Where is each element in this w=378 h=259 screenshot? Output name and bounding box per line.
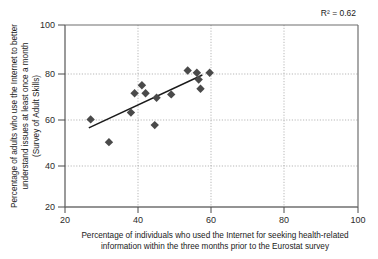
y-tick-label: 40	[45, 161, 55, 171]
x-tick-label: 40	[133, 215, 143, 225]
y-tick-label: 100	[40, 20, 55, 30]
y-axis-title: Percentage of adults who use the Interne…	[10, 24, 41, 208]
chart-figure: 100 80 60 40 20 20 40 60 80 100 R² = 0.6…	[0, 0, 378, 259]
x-axis-tick-labels: 20 40 60 80 100	[60, 215, 366, 225]
x-tick-label: 20	[60, 215, 70, 225]
y-axis-title-line1: Percentage of adults who use the Interne…	[10, 24, 19, 208]
scatter-chart: 100 80 60 40 20 20 40 60 80 100 R² = 0.6…	[0, 0, 378, 259]
y-tick-label: 80	[45, 69, 55, 79]
x-tick-label: 80	[279, 215, 289, 225]
x-axis-title-line1: Percentage of individuals who used the I…	[81, 231, 349, 240]
x-axis-title: Percentage of individuals who used the I…	[81, 231, 349, 251]
r-squared-annotation: R² = 0.62	[321, 8, 356, 18]
y-axis-title-line3: (Survey of Adult Skills)	[32, 75, 41, 157]
y-tick-label: 20	[45, 202, 55, 212]
x-tick-label: 100	[350, 215, 365, 225]
y-tick-label: 60	[45, 115, 55, 125]
plot-area-background	[65, 25, 358, 207]
y-axis-title-line2: understand issues at least once a month	[21, 42, 30, 189]
x-tick-label: 60	[206, 215, 216, 225]
y-axis-tick-labels: 100 80 60 40 20	[40, 20, 55, 212]
x-axis-ticks	[65, 207, 358, 213]
x-axis-title-line2: information within the three months prio…	[101, 242, 330, 251]
y-axis-ticks	[58, 25, 65, 207]
